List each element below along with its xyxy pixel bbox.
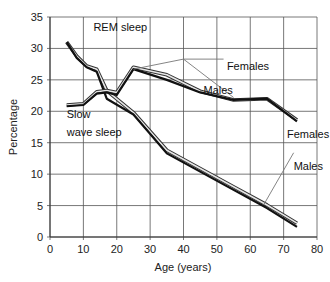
leader-line <box>264 153 294 205</box>
annotation-label: Females <box>287 128 330 140</box>
x-tick-label: 80 <box>311 243 323 255</box>
y-tick-label: 0 <box>37 231 43 243</box>
x-tick-label: 60 <box>244 243 256 255</box>
y-tick-label: 5 <box>37 200 43 212</box>
x-tick-label: 50 <box>211 243 223 255</box>
x-axis-label: Age (years) <box>155 261 212 273</box>
annotation-label: Slow <box>67 108 91 120</box>
x-tick-label: 0 <box>47 243 53 255</box>
line-chart: 0102030405060708005101520253035 REM slee… <box>0 0 330 282</box>
x-tick-label: 30 <box>144 243 156 255</box>
y-tick-label: 20 <box>31 105 43 117</box>
y-tick-label: 35 <box>31 11 43 23</box>
x-tick-label: 20 <box>111 243 123 255</box>
y-tick-label: 30 <box>31 42 43 54</box>
y-tick-label: 25 <box>31 74 43 86</box>
y-tick-label: 15 <box>31 137 43 149</box>
x-tick-label: 10 <box>77 243 89 255</box>
annotation-label: REM sleep <box>93 21 147 33</box>
y-axis-label: Percentage <box>7 99 19 155</box>
x-tick-label: 70 <box>278 243 290 255</box>
annotation-label: Females <box>227 60 270 72</box>
y-tick-label: 10 <box>31 168 43 180</box>
annotation-label: Males <box>204 84 234 96</box>
annotation-label: Males <box>294 160 324 172</box>
annotation-label: wave sleep <box>66 126 122 138</box>
leader-line <box>133 59 223 69</box>
x-tick-label: 40 <box>177 243 189 255</box>
